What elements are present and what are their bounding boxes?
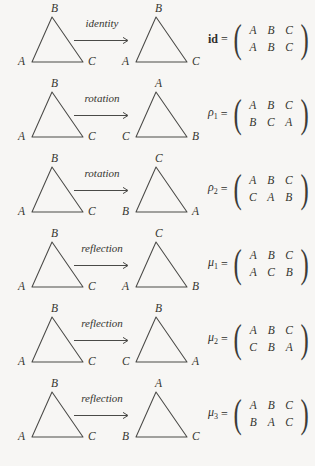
matrix-cell: B	[268, 250, 275, 262]
right-paren: )	[300, 98, 308, 129]
matrix-cell: A	[286, 342, 293, 354]
right-paren: )	[301, 323, 309, 354]
matrix-cell: C	[267, 267, 275, 279]
equals-sign: =	[221, 32, 228, 47]
vertex-label-bl: A	[122, 56, 129, 68]
matrix-cell: B	[267, 100, 274, 112]
symmetry-name: ρ2	[208, 181, 218, 196]
matrix-cell: B	[250, 417, 257, 429]
left-paren: (	[233, 248, 241, 279]
matrix-cell: B	[268, 325, 275, 337]
symmetry-name: μ3	[208, 406, 218, 421]
vertex-label-br: C	[88, 356, 96, 368]
matrix-grid: ABCCAB	[244, 172, 298, 206]
vertex-label-br: C	[192, 56, 200, 68]
left-paren: (	[233, 23, 241, 54]
vertex-label-bl: B	[122, 431, 129, 443]
matrix-cell: A	[268, 417, 275, 429]
vertex-label-bl: B	[122, 206, 129, 218]
matrix-cell: C	[285, 417, 293, 429]
vertex-label-br: C	[88, 281, 96, 293]
right-paren: )	[301, 23, 309, 54]
triangle-outline	[134, 316, 190, 364]
left-paren: (	[233, 398, 241, 429]
vertex-label-br: C	[88, 56, 96, 68]
triangle-outline	[134, 391, 190, 439]
matrix-grid: ABCACB	[244, 247, 298, 281]
vertex-label-apex: B	[51, 3, 58, 15]
matrix-grid: ABCBCA	[244, 97, 298, 131]
vertex-label-br: B	[192, 281, 199, 293]
target-triangle: ACB	[122, 77, 218, 149]
left-paren: (	[233, 98, 241, 129]
matrix-cell: C	[285, 100, 293, 112]
matrix-cell: C	[285, 325, 293, 337]
symmetry-name-subscript: 1	[214, 113, 218, 122]
vertex-label-apex: B	[51, 78, 58, 90]
vertex-label-apex: B	[51, 228, 58, 240]
vertex-label-bl: C	[122, 356, 130, 368]
right-paren: )	[301, 248, 309, 279]
symmetry-row: BACidentityBACid=(ABCABC)	[0, 2, 315, 77]
equals-sign: =	[221, 257, 228, 272]
matrix-cell: A	[267, 192, 274, 204]
matrix-cell: A	[250, 400, 257, 412]
symmetry-name: μ1	[208, 256, 218, 271]
matrix-cell: A	[285, 117, 292, 129]
triangle-outline	[134, 16, 190, 64]
matrix-cell: A	[250, 25, 257, 37]
matrix-cell: C	[285, 175, 293, 187]
matrix-grid: ABCABC	[244, 22, 298, 56]
right-paren: )	[301, 398, 309, 429]
matrix-cell: A	[250, 250, 257, 262]
vertex-label-apex: B	[155, 3, 162, 15]
symmetry-name-subscript: 2	[214, 188, 218, 197]
equals-sign: =	[221, 407, 228, 422]
target-triangle: BAC	[122, 2, 218, 74]
vertex-label-apex: B	[51, 153, 58, 165]
matrix-cell: B	[268, 25, 275, 37]
matrix-cell: B	[267, 175, 274, 187]
target-triangle: BCA	[122, 302, 218, 374]
matrix-cell: C	[249, 192, 257, 204]
vertex-label-bl: C	[122, 131, 130, 143]
vertex-label-bl: A	[18, 131, 25, 143]
matrix-cell: C	[285, 400, 293, 412]
vertex-label-bl: A	[18, 281, 25, 293]
matrix-cell: A	[249, 100, 256, 112]
vertex-label-br: A	[192, 206, 199, 218]
symmetry-name: μ2	[208, 331, 218, 346]
equals-sign: =	[221, 182, 228, 197]
matrix-cell: C	[285, 250, 293, 262]
permutation-matrix: id=(ABCABC)	[208, 13, 311, 65]
matrix-cell: A	[249, 175, 256, 187]
vertex-label-br: C	[88, 131, 96, 143]
vertex-label-apex: B	[155, 303, 162, 315]
matrix-cell: A	[250, 42, 257, 54]
vertex-label-br: C	[192, 431, 200, 443]
symmetry-name-subscript: 1	[214, 263, 218, 272]
vertex-label-bl: A	[18, 431, 25, 443]
matrix-grid: ABCCBA	[244, 322, 298, 356]
matrix-cell: C	[285, 25, 293, 37]
vertex-label-apex: B	[51, 303, 58, 315]
target-triangle: CAB	[122, 227, 218, 299]
vertex-label-apex: A	[155, 378, 162, 390]
left-paren: (	[233, 323, 241, 354]
matrix-cell: C	[285, 42, 293, 54]
triangle-outline	[134, 91, 190, 139]
matrix-cell: B	[249, 117, 256, 129]
symmetry-row: BACrotationACBρ1=(ABCBCA)	[0, 77, 315, 152]
vertex-label-apex: C	[155, 153, 163, 165]
symmetry-row: BACreflectionBCAμ2=(ABCCBA)	[0, 302, 315, 377]
vertex-label-bl: A	[18, 56, 25, 68]
symmetry-name-text: id	[208, 32, 218, 46]
target-triangle: ABC	[122, 377, 218, 449]
symmetry-row: BACreflectionABCμ3=(ABCBAC)	[0, 377, 315, 452]
matrix-cell: B	[285, 192, 292, 204]
matrix-grid: ABCBAC	[244, 397, 298, 431]
vertex-label-br: C	[88, 431, 96, 443]
permutation-matrix: μ1=(ABCACB)	[208, 238, 311, 290]
matrix-cell: B	[286, 267, 293, 279]
symmetry-name: ρ1	[208, 106, 218, 121]
